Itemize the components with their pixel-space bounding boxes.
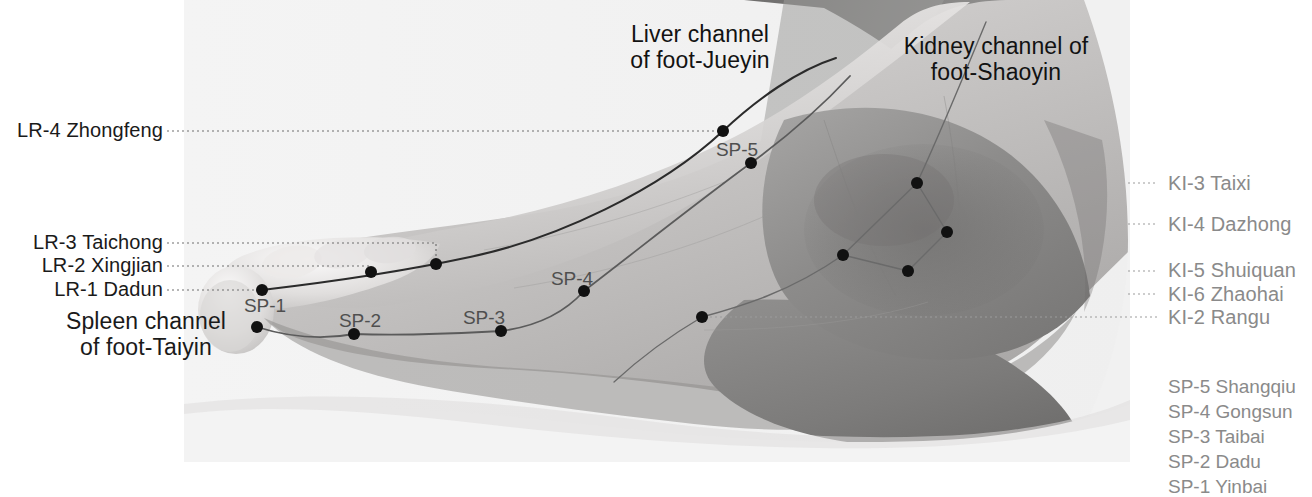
legend-item-sp-2: SP-2 Dadu	[1168, 449, 1296, 474]
legend-item-sp-5: SP-5 Shangqiu	[1168, 374, 1296, 399]
kidney-channel-title-line2: foot-Shaoyin	[904, 60, 1089, 86]
legend-item-sp-1: SP-1 Yinbai	[1168, 474, 1296, 497]
label-lr-4-zhongfeng: LR-4 Zhongfeng	[17, 119, 163, 141]
kidney-channel-title-line1: Kidney channel of	[904, 34, 1089, 60]
label-ki-3-taixi: KI-3 Taixi	[1168, 172, 1251, 194]
liver-channel-title-line1: Liver channel	[630, 22, 769, 48]
point-label-sp-3: SP-3	[463, 307, 505, 329]
point-label-sp-1: SP-1	[244, 295, 286, 317]
liver-channel-title-line2: of foot-Jueyin	[630, 48, 769, 74]
label-ki-2-rangu: KI-2 Rangu	[1168, 306, 1270, 328]
label-ki-6-zhaohai: KI-6 Zhaohai	[1168, 283, 1284, 305]
label-lr-2-xingjian: LR-2 Xingjian	[42, 254, 163, 276]
spleen-points-legend: SP-5 Shangqiu SP-4 Gongsun SP-3 Taibai S…	[1168, 374, 1296, 497]
point-label-sp-5: SP-5	[716, 139, 758, 161]
point-label-sp-4: SP-4	[551, 268, 593, 290]
label-lr-1-dadun: LR-1 Dadun	[54, 278, 163, 300]
spleen-channel-title: Spleen channel of foot-Taiyin	[66, 309, 226, 361]
label-ki-4-dazhong: KI-4 Dazhong	[1168, 213, 1292, 235]
spleen-channel-title-line2: of foot-Taiyin	[66, 335, 226, 361]
point-label-sp-2: SP-2	[339, 310, 381, 332]
spleen-channel-title-line1: Spleen channel	[66, 309, 226, 335]
kidney-channel-title: Kidney channel of foot-Shaoyin	[904, 34, 1089, 86]
label-ki-5-shuiquan: KI-5 Shuiquan	[1168, 259, 1296, 281]
legend-item-sp-3: SP-3 Taibai	[1168, 424, 1296, 449]
legend-item-sp-4: SP-4 Gongsun	[1168, 399, 1296, 424]
label-lr-3-taichong: LR-3 Taichong	[33, 231, 163, 253]
liver-channel-title: Liver channel of foot-Jueyin	[630, 22, 769, 74]
